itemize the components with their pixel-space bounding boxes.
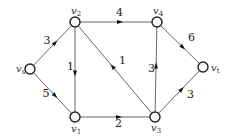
node-v2 — [70, 17, 80, 27]
edge-weight: 1 — [119, 54, 126, 67]
edge-weight: 3 — [148, 62, 155, 75]
node-label: v1 — [71, 123, 81, 136]
edge-weight: 2 — [115, 117, 122, 130]
arrow-icon — [117, 20, 123, 24]
edge-weight: 3 — [187, 88, 194, 101]
edge-weight: 1 — [67, 60, 74, 73]
edge-weight: 5 — [43, 87, 50, 100]
node-label: vs — [16, 63, 26, 76]
edge-v3-v4 — [155, 27, 157, 112]
network-diagram: 354112363 vsv2v4vtv1v3 — [0, 0, 229, 136]
node-label: v4 — [153, 5, 164, 18]
edge-vs-v2 — [33, 26, 71, 66]
node-v4 — [152, 17, 162, 27]
node-v3 — [150, 112, 160, 122]
edge-weight: 3 — [44, 34, 51, 47]
node-v1 — [70, 112, 80, 122]
edge-weight: 6 — [188, 31, 195, 44]
node-label: v2 — [71, 5, 81, 18]
edge-weight: 4 — [116, 6, 123, 19]
node-vt — [198, 62, 208, 72]
edges: 354112363 — [33, 6, 199, 130]
node-label: v3 — [151, 122, 161, 135]
node-label: vt — [211, 62, 220, 75]
edge-v3-v2 — [78, 26, 152, 113]
node-vs — [25, 64, 35, 74]
edge-vs-v1 — [33, 73, 71, 114]
